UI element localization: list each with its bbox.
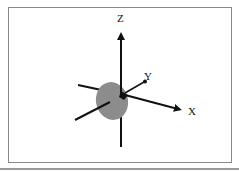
axes-diagram: Z X Y bbox=[0, 0, 239, 172]
y-axis-label: Y bbox=[144, 70, 152, 82]
z-axis-label: Z bbox=[117, 12, 124, 24]
disk-object bbox=[92, 79, 131, 123]
x-axis-label: X bbox=[188, 105, 196, 117]
y-axis bbox=[125, 82, 144, 93]
x-axis bbox=[125, 95, 178, 109]
